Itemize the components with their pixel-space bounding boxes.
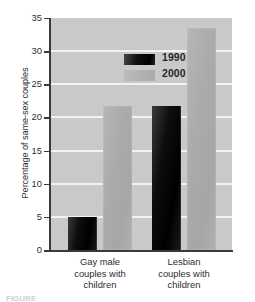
x-axis-category-1-line-2: children — [136, 279, 232, 291]
x-axis-category-0-line-0: Gay male — [52, 256, 148, 268]
bar-2000-group-1 — [187, 28, 216, 250]
y-tick-label-wrap-30: 30 — [0, 45, 42, 57]
y-axis-line — [49, 18, 51, 251]
legend-swatch-1990-icon — [124, 54, 155, 65]
y-tick-label-15: 15 — [2, 145, 42, 156]
y-tick-label-wrap-35: 35 — [0, 12, 42, 24]
legend-label-2000: 2000 — [162, 68, 186, 79]
y-tick-label-30: 30 — [2, 45, 42, 56]
y-tick-label-0: 0 — [2, 244, 42, 255]
bar-chart-figure: Percentage of same-sex couples 051015202… — [0, 0, 255, 302]
x-axis-category-label-0: Gay malecouples withchildren — [52, 256, 148, 291]
legend-swatch-2000-icon — [124, 70, 155, 81]
caption-fragment: FIGURE — [6, 294, 36, 301]
y-tick-label-wrap-15: 15 — [0, 145, 42, 157]
y-tick-label-wrap-10: 10 — [0, 178, 42, 190]
plot-area: 1990 2000 — [50, 18, 232, 250]
x-axis-line — [44, 250, 233, 252]
bar-2000-group-0 — [103, 106, 132, 250]
y-tick-label-5: 5 — [2, 211, 42, 222]
x-axis-category-1-line-1: couples with — [136, 268, 232, 280]
y-tick-label-wrap-5: 5 — [0, 211, 42, 223]
y-tick-label-wrap-0: 0 — [0, 244, 42, 256]
x-axis-category-0-line-2: children — [52, 279, 148, 291]
y-tick-label-20: 20 — [2, 111, 42, 122]
x-axis-category-1-line-0: Lesbian — [136, 256, 232, 268]
y-tick-label-35: 35 — [2, 12, 42, 23]
x-axis-category-label-1: Lesbiancouples withchildren — [136, 256, 232, 291]
x-axis-category-0-line-1: couples with — [52, 268, 148, 280]
bar-1990-group-0 — [68, 217, 97, 250]
y-tick-label-25: 25 — [2, 78, 42, 89]
legend-label-1990: 1990 — [162, 52, 186, 63]
y-tick-label-wrap-20: 20 — [0, 111, 42, 123]
y-tick-label-10: 10 — [2, 178, 42, 189]
bar-1990-group-1 — [152, 106, 181, 250]
y-tick-label-wrap-25: 25 — [0, 78, 42, 90]
